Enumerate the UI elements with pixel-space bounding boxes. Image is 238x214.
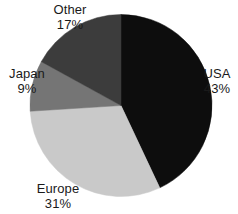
pie-label-europe: Europe 31% [26,181,90,211]
pie-label-other: Other 17% [42,2,98,32]
pie-label-usa-value: 43% [196,81,238,96]
pie-label-japan-value: 9% [2,81,52,96]
pie-label-other-name: Other [42,2,98,17]
pie-label-other-value: 17% [42,17,98,32]
pie-label-usa-name: USA [196,66,238,81]
pie-chart: Other 17% Japan 9% USA 43% Europe 31% [0,0,238,214]
pie-label-japan-name: Japan [2,66,52,81]
pie-label-usa: USA 43% [196,66,238,96]
pie-label-europe-value: 31% [26,196,90,211]
pie-label-europe-name: Europe [26,181,90,196]
pie-slices [30,14,212,196]
pie-label-japan: Japan 9% [2,66,52,96]
